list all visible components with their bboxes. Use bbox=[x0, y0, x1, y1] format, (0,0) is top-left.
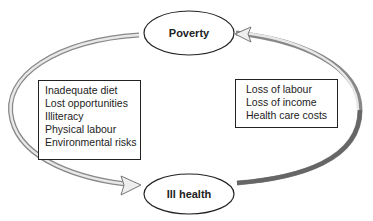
node-ill-health: Ill health bbox=[144, 174, 234, 214]
node-label: Ill health bbox=[167, 188, 212, 200]
list-item: Illiteracy bbox=[45, 110, 134, 123]
causes-box: Inadequate diet Lost opportunities Illit… bbox=[38, 80, 141, 160]
list-item: Inadequate diet bbox=[45, 84, 134, 97]
list-item: Lost opportunities bbox=[45, 97, 134, 110]
list-item: Environmental risks bbox=[45, 136, 134, 149]
node-poverty: Poverty bbox=[144, 11, 234, 55]
effects-box: Loss of labour Loss of income Health car… bbox=[235, 79, 338, 128]
node-label: Poverty bbox=[169, 27, 209, 39]
list-item: Health care costs bbox=[246, 109, 331, 122]
list-item: Loss of income bbox=[246, 96, 331, 109]
list-item: Physical labour bbox=[45, 123, 134, 136]
list-item: Loss of labour bbox=[246, 83, 331, 96]
